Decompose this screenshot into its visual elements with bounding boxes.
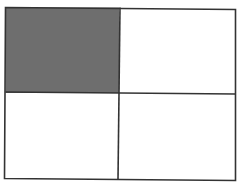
shaded-cell-top-left bbox=[6, 8, 120, 94]
fraction-diagram bbox=[0, 0, 242, 186]
cell-bottom-right bbox=[119, 93, 236, 180]
cell-bottom-left bbox=[6, 93, 120, 180]
area-model-svg bbox=[0, 0, 242, 186]
cell-top-right bbox=[119, 8, 236, 94]
